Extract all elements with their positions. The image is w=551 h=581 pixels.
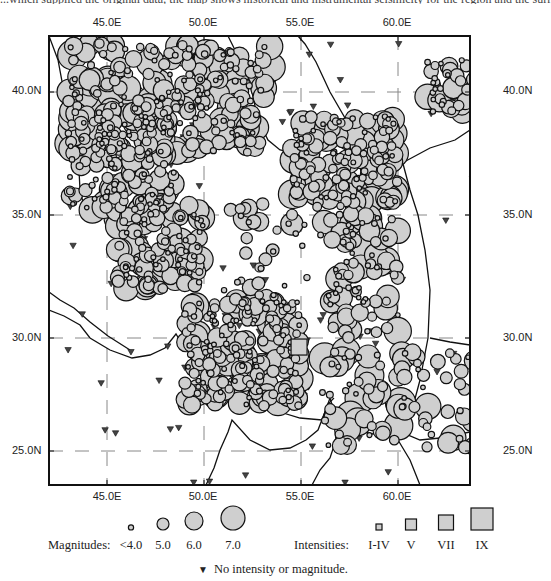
earthquake-marker bbox=[132, 206, 138, 212]
earthquake-marker bbox=[186, 71, 193, 78]
earthquake-marker bbox=[220, 333, 225, 338]
earthquake-marker bbox=[123, 46, 128, 51]
earthquake-marker bbox=[256, 388, 262, 394]
earthquake-marker bbox=[323, 131, 337, 145]
earthquake-marker bbox=[274, 300, 279, 305]
no-data-triangle bbox=[471, 283, 477, 289]
earthquake-marker bbox=[112, 187, 117, 192]
legend-magnitude-circle-2 bbox=[157, 518, 169, 530]
earthquake-marker bbox=[227, 62, 233, 68]
earthquake-marker bbox=[94, 90, 102, 98]
earthquake-marker bbox=[225, 385, 233, 393]
earthquake-marker bbox=[396, 313, 401, 318]
earthquake-marker bbox=[71, 202, 75, 206]
earthquake-marker bbox=[154, 99, 159, 104]
earthquake-marker bbox=[439, 102, 444, 107]
earthquake-marker bbox=[119, 102, 123, 106]
earthquake-marker bbox=[159, 95, 164, 100]
earthquake-marker bbox=[258, 87, 264, 93]
earthquake-marker bbox=[294, 142, 299, 147]
earthquake-marker bbox=[252, 277, 265, 290]
earthquake-marker bbox=[186, 365, 190, 369]
earthquake-marker bbox=[259, 401, 269, 411]
earthquake-marker bbox=[155, 78, 160, 83]
earthquake-marker bbox=[248, 60, 253, 65]
earthquake-marker bbox=[123, 265, 128, 270]
earthquake-marker bbox=[363, 191, 367, 195]
earthquake-marker bbox=[326, 391, 333, 398]
legend-no-data: ▼No intensity or magnitude. bbox=[198, 562, 348, 577]
earthquake-marker bbox=[195, 216, 199, 220]
earthquake-marker bbox=[151, 47, 158, 54]
lon-label-top-45: 45.0E bbox=[82, 16, 132, 28]
earthquake-marker bbox=[121, 191, 129, 199]
legend-intensity-square-3 bbox=[439, 515, 454, 530]
earthquake-marker bbox=[471, 76, 486, 91]
earthquake-marker bbox=[158, 149, 163, 154]
earthquake-marker bbox=[245, 136, 256, 147]
earthquake-marker bbox=[267, 365, 279, 377]
earthquake-marker bbox=[277, 346, 285, 354]
earthquake-marker bbox=[159, 59, 170, 70]
earthquake-marker bbox=[457, 408, 463, 414]
earthquake-marker bbox=[123, 169, 135, 181]
earthquake-marker bbox=[198, 92, 202, 96]
no-data-triangle bbox=[70, 243, 76, 249]
earthquake-marker bbox=[423, 423, 431, 431]
earthquake-marker bbox=[69, 157, 75, 163]
earthquake-marker bbox=[397, 369, 412, 384]
earthquake-marker bbox=[361, 168, 368, 175]
earthquake-marker bbox=[388, 216, 395, 223]
earthquake-marker bbox=[107, 132, 111, 136]
earthquake-marker bbox=[125, 51, 142, 68]
earthquake-marker bbox=[142, 137, 151, 146]
lon-label-bottom-45: 45.0E bbox=[82, 490, 132, 502]
earthquake-marker bbox=[431, 80, 436, 85]
earthquake-marker bbox=[382, 297, 390, 305]
legend-intensity-square-2 bbox=[406, 519, 417, 530]
earthquake-marker bbox=[343, 332, 355, 344]
earthquake-marker bbox=[201, 223, 205, 227]
earthquake-marker bbox=[125, 68, 131, 74]
earthquake-marker bbox=[369, 171, 378, 180]
earthquake-marker bbox=[365, 329, 370, 334]
earthquake-marker bbox=[390, 154, 394, 158]
earthquake-marker bbox=[210, 304, 219, 313]
earthquake-marker bbox=[189, 368, 199, 378]
no-data-triangle bbox=[320, 313, 326, 319]
earthquake-marker bbox=[357, 286, 362, 291]
earthquake-marker bbox=[195, 359, 203, 367]
earthquake-marker bbox=[350, 231, 356, 237]
earthquake-marker bbox=[286, 221, 291, 226]
earthquake-marker bbox=[187, 270, 192, 275]
earthquake-marker bbox=[154, 200, 159, 205]
earthquake-marker bbox=[375, 265, 380, 270]
earthquake-marker bbox=[103, 194, 109, 200]
earthquake-marker bbox=[279, 396, 287, 404]
earthquake-marker bbox=[124, 272, 129, 277]
earthquake-marker bbox=[233, 66, 239, 72]
earthquake-marker bbox=[360, 113, 376, 129]
earthquake-marker bbox=[102, 172, 113, 183]
earthquake-marker bbox=[352, 146, 361, 155]
earthquake-marker bbox=[360, 150, 366, 156]
earthquake-marker bbox=[325, 404, 336, 415]
earthquake-marker bbox=[320, 390, 326, 396]
no-data-triangle bbox=[317, 318, 323, 324]
lon-label-bottom-60: 60.0E bbox=[372, 490, 422, 502]
earthquake-marker bbox=[273, 226, 281, 234]
earthquake-marker bbox=[145, 276, 151, 282]
earthquake-marker bbox=[95, 39, 104, 48]
earthquake-marker bbox=[357, 186, 362, 191]
earthquake-marker bbox=[286, 388, 290, 392]
earthquake-marker bbox=[186, 46, 192, 52]
lat-label-right-40: 40.0N bbox=[503, 84, 532, 96]
no-data-triangle bbox=[443, 218, 449, 224]
earthquake-marker bbox=[253, 112, 259, 118]
earthquake-marker bbox=[68, 144, 73, 149]
earthquake-marker bbox=[311, 128, 315, 132]
earthquake-marker bbox=[177, 233, 182, 238]
earthquake-marker bbox=[294, 182, 299, 187]
earthquake-marker bbox=[392, 177, 401, 186]
earthquake-marker bbox=[172, 104, 180, 112]
